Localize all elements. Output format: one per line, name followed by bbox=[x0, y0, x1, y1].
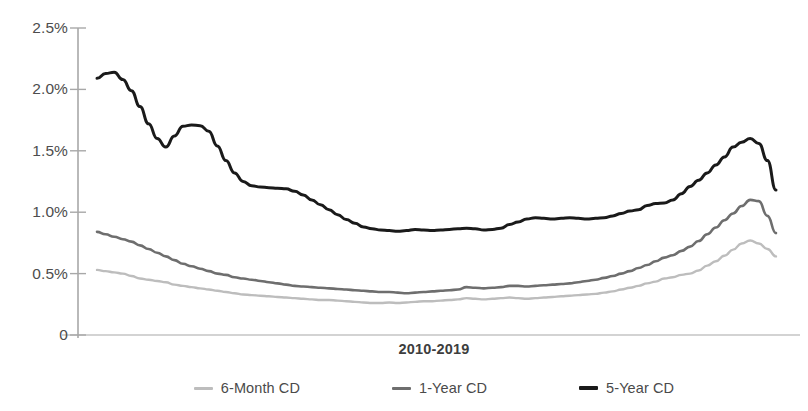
y-axis-tick-label: 1.0% bbox=[6, 204, 68, 220]
y-axis-tick-label: 1.5% bbox=[6, 143, 68, 159]
legend-label: 1-Year CD bbox=[419, 380, 487, 396]
line-chart-svg bbox=[0, 0, 808, 360]
y-axis-tick-label: 2.5% bbox=[6, 20, 68, 36]
data-line-1-year-cd bbox=[97, 200, 776, 293]
legend-label: 5-Year CD bbox=[606, 380, 674, 396]
x-axis-title: 2010-2019 bbox=[78, 341, 790, 357]
data-line-6-month-cd bbox=[97, 240, 776, 303]
data-series-group bbox=[97, 72, 776, 303]
y-axis-tick-label: 0 bbox=[6, 327, 68, 343]
chart-screenshot: 00.5%1.0%1.5%2.0%2.5% 2010-2019 6-Month … bbox=[0, 0, 808, 411]
legend-item-1-year-cd[interactable]: 1-Year CD bbox=[392, 380, 487, 396]
legend-label: 6-Month CD bbox=[221, 380, 300, 396]
legend-item-6-month-cd[interactable]: 6-Month CD bbox=[194, 380, 300, 396]
legend-swatch-icon bbox=[194, 387, 213, 390]
chart-legend: 6-Month CD1-Year CD5-Year CD bbox=[78, 375, 790, 401]
legend-swatch-icon bbox=[392, 387, 411, 390]
y-axis-tick-label: 0.5% bbox=[6, 266, 68, 282]
plot-area: 00.5%1.0%1.5%2.0%2.5% bbox=[0, 0, 808, 360]
legend-item-5-year-cd[interactable]: 5-Year CD bbox=[579, 380, 674, 396]
y-axis-tick-labels: 00.5%1.0%1.5%2.0%2.5% bbox=[0, 0, 68, 360]
legend-swatch-icon bbox=[579, 386, 598, 390]
y-axis-tick-label: 2.0% bbox=[6, 81, 68, 97]
data-line-5-year-cd bbox=[97, 72, 776, 231]
